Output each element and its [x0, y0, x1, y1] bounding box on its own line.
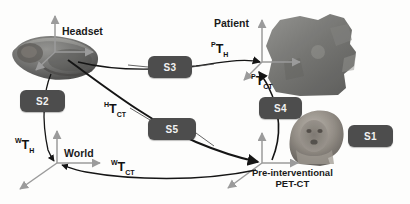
arrow-w-t-h [44, 74, 54, 161]
badge-s3[interactable]: S3 [148, 56, 192, 78]
badge-s3-label: S3 [164, 62, 177, 73]
transform-label-w-t-h: WTH [15, 136, 34, 154]
transform-label-p-t-ct: PTCT [251, 72, 273, 90]
badge-s4-label: S4 [274, 103, 287, 114]
tf-p-t-h-subscript: H [223, 51, 228, 58]
leader-s3-left [128, 65, 148, 67]
tf-w-t-ct-subscript: CT [125, 169, 134, 176]
transform-label-h-t-ct: HTCT [104, 100, 126, 118]
tf-p-t-ct-subscript: CT [263, 83, 272, 90]
tf-h-t-ct-subscript: CT [117, 111, 126, 118]
frame-label-world: World [64, 147, 94, 159]
badge-s4[interactable]: S4 [259, 97, 302, 119]
badge-s1-label: S1 [364, 131, 377, 142]
transform-label-p-t-h: PTH [211, 40, 228, 58]
arrow-w-t-ct [62, 165, 256, 179]
badge-s2-label: S2 [36, 96, 49, 107]
tf-w-t-h-subscript: H [29, 147, 34, 154]
badge-s5-label: S5 [166, 124, 179, 135]
badge-s1[interactable]: S1 [348, 125, 393, 147]
frame-label-petct: Pre-interventional PET-CT [252, 168, 333, 190]
transform-label-w-t-ct: WTCT [111, 158, 135, 176]
leader-s5-left [130, 108, 150, 120]
tf-w-t-ct-prescript: W [111, 159, 118, 166]
diagram-canvas: S1 S2 S3 S4 S5 Headset Patient World Pre… [0, 0, 410, 204]
petct-caption-line2: PET-CT [252, 179, 333, 190]
tf-w-t-h-prescript: W [15, 137, 22, 144]
tf-h-t-ct-base: T [109, 102, 117, 116]
badge-s2[interactable]: S2 [20, 90, 65, 112]
frame-label-headset: Headset [62, 25, 103, 37]
frame-label-patient: Patient [214, 17, 249, 29]
badge-s5[interactable]: S5 [148, 118, 196, 140]
